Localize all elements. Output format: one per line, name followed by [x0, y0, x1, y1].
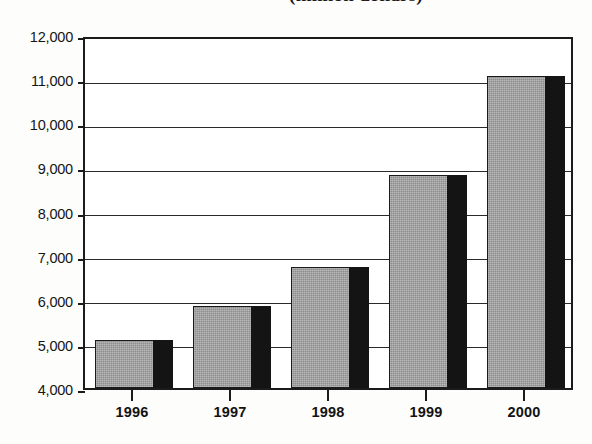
y-tick-label: 4,000	[0, 382, 73, 398]
plot-area	[83, 37, 573, 390]
bar-face	[487, 76, 545, 388]
bar-shadow	[153, 340, 173, 388]
y-tick-mark	[78, 347, 85, 349]
bar-face	[95, 340, 153, 388]
bar-2000	[487, 76, 565, 388]
y-tick-label: 12,000	[0, 29, 73, 45]
bar-shadow	[349, 267, 369, 388]
x-tick-label: 1997	[213, 404, 246, 420]
y-tick-mark	[78, 126, 85, 128]
x-tick-label: 1999	[409, 404, 442, 420]
y-tick-label: 5,000	[0, 338, 73, 354]
bar-shadow	[545, 76, 565, 388]
bar-1997	[193, 306, 271, 389]
y-tick-label: 6,000	[0, 294, 73, 310]
x-tick-label: 1998	[311, 404, 344, 420]
x-tick-mark	[425, 390, 427, 401]
y-tick-mark	[78, 170, 85, 172]
bar-1996	[95, 340, 173, 388]
x-tick-mark	[131, 390, 133, 401]
bar-shadow	[447, 175, 467, 388]
bar-face	[291, 267, 349, 388]
y-tick-mark	[78, 391, 85, 393]
x-tick-label: 1996	[115, 404, 148, 420]
bar-face	[389, 175, 447, 388]
x-tick-mark	[327, 390, 329, 401]
y-tick-mark	[78, 303, 85, 305]
bar-face	[193, 306, 251, 389]
x-tick-mark	[229, 390, 231, 401]
y-tick-label: 9,000	[0, 161, 73, 177]
x-tick-label: 2000	[507, 404, 540, 420]
y-tick-mark	[78, 38, 85, 40]
y-tick-label: 7,000	[0, 250, 73, 266]
y-tick-label: 11,000	[0, 73, 73, 89]
bar-1998	[291, 267, 369, 388]
bar-1999	[389, 175, 467, 388]
y-tick-mark	[78, 82, 85, 84]
y-tick-label: 10,000	[0, 117, 73, 133]
bar-shadow	[251, 306, 271, 389]
y-tick-label: 8,000	[0, 206, 73, 222]
y-tick-mark	[78, 259, 85, 261]
y-tick-mark	[78, 215, 85, 217]
x-tick-mark	[523, 390, 525, 401]
